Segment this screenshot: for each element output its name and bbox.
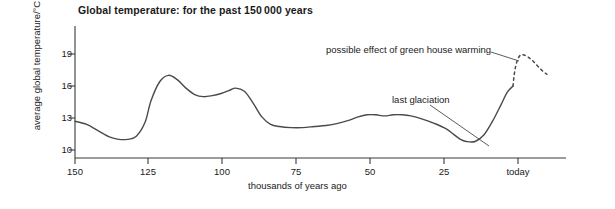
y-axis-ticks: [69, 54, 75, 150]
x-axis-ticks: [75, 158, 518, 164]
series-greenhouse-projection: [513, 55, 547, 86]
chart-figure: Global temperature: for the past 150 000…: [0, 0, 615, 209]
series-observed-temperature: [75, 75, 513, 142]
chart-plot: [0, 0, 615, 209]
leader-line-greenhouse: [491, 52, 519, 61]
